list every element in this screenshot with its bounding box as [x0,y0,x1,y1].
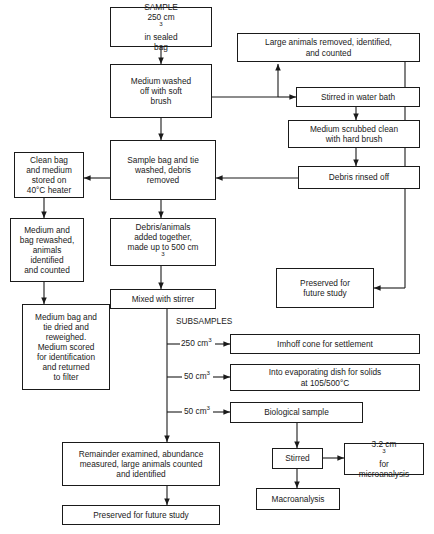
node-clean-bag-line4: 40°C heater [26,185,72,195]
node-preserved-future-study-bottom[interactable]: Preserved for future study [62,505,220,525]
node-macroanalysis[interactable]: Macroanalysis [256,488,340,510]
node-stirred-water-bath[interactable]: Stirred in water bath [296,87,420,107]
node-medium-dried-line2: tie dried and [35,322,97,332]
branch-label-50cm3-b: 50 cm3 [184,407,210,417]
node-preserved-right-line2: future study [300,288,350,298]
node-biological-label: Biological sample [264,407,329,417]
node-mixed-with-stirrer[interactable]: Mixed with stirrer [110,289,216,309]
node-medium-washed-line3: brush [131,96,191,106]
node-medium-rewashed-line4: identified [20,255,74,265]
node-medium-rewashed-line2: bag rewashed, [20,235,74,245]
node-medium-dried-line7: to filter [35,372,97,382]
node-medium-washed-line1: Medium washed [131,76,191,86]
node-medium-dried-line6: and returned [35,362,97,372]
node-medium-rewashed-line1: Medium and [20,225,74,235]
node-remainder-examined[interactable]: Remainder examined, abundance measured, … [62,442,220,486]
node-evaporating-line2: at 105/500°C [269,378,382,388]
node-evaporating-dish[interactable]: Into evaporating dish for solids at 105/… [230,364,420,391]
node-debris-animals-line2: added together, [127,232,198,242]
node-microanalysis[interactable]: 3.2 cm3 for microanalysis [344,443,424,475]
node-medium-rewashed-line5: and counted [20,265,74,275]
branch-label-250cm3: 250 cm3 [181,339,212,349]
node-remainder-line2: measured, large animals counted [79,459,204,469]
label-subsamples: SUBSAMPLES [176,317,232,327]
node-micro-line2: microanalysis [359,469,409,479]
node-remainder-line1: Remainder examined, abundance [79,449,204,459]
node-clean-bag-line3: stored on [26,175,72,185]
node-medium-dried-line3: reweighed. [35,332,97,342]
node-sample-line3: bag [144,42,178,52]
node-medium-bag-dried[interactable]: Medium bag and tie dried and reweighed. … [22,304,110,390]
node-imhoff-label: Imhoff cone for settlement [277,339,373,349]
node-remainder-line3: and identified [79,469,204,479]
node-preserved-right-line1: Preserved for [300,278,350,288]
node-medium-washed-line2: off with soft [131,86,191,96]
node-medium-scrubbed-line1: Medium scrubbed clean [310,124,398,134]
node-medium-washed[interactable]: Medium washed off with soft brush [110,64,212,118]
node-medium-scrubbed-line2: with hard brush [310,134,398,144]
flowchart-canvas: SAMPLE 250 cm3 in sealed bag Medium wash… [0,0,434,534]
node-medium-rewashed-line3: animals [20,245,74,255]
node-stirred-water-bath-label: Stirred in water bath [321,92,395,102]
node-medium-scrubbed[interactable]: Medium scrubbed clean with hard brush [288,120,420,148]
node-debris-rinsed-off-label: Debris rinsed off [329,172,389,182]
node-medium-dried-line1: Medium bag and [35,312,97,322]
node-sample-bag-washed[interactable]: Sample bag and tie washed, debris remove… [110,140,216,200]
node-stirred-label: Stirred [285,453,309,463]
node-clean-bag-stored[interactable]: Clean bag and medium stored on 40°C heat… [14,152,84,198]
node-sample-line1: SAMPLE [144,2,178,12]
node-large-animals-line1: Large animals removed, identified, [265,37,392,47]
node-sample-bag-line3: removed [127,175,199,185]
node-large-animals-line2: and counted [265,48,392,58]
node-sample-bag-line1: Sample bag and tie [127,155,199,165]
node-biological-sample[interactable]: Biological sample [230,402,363,423]
node-preserved-bottom-label: Preserved for future study [93,510,188,520]
node-debris-animals-added[interactable]: Debris/animals added together, made up t… [110,218,216,266]
branch-label-50cm3-a: 50 cm3 [184,372,210,382]
node-imhoff-cone[interactable]: Imhoff cone for settlement [230,334,420,354]
node-micro-line1: 3.2 cm3 for [359,439,409,469]
node-debris-animals-line1: Debris/animals [127,222,198,232]
node-debris-animals-line3: made up to 500 cm3 [127,242,198,262]
node-debris-rinsed-off[interactable]: Debris rinsed off [298,166,420,189]
node-mixed-stirrer-label: Mixed with stirrer [132,294,195,304]
node-medium-dried-line5: for identification [35,352,97,362]
node-clean-bag-line1: Clean bag [26,155,72,165]
node-medium-bag-rewashed[interactable]: Medium and bag rewashed, animals identif… [10,218,84,282]
node-clean-bag-line2: and medium [26,165,72,175]
node-sample[interactable]: SAMPLE 250 cm3 in sealed bag [110,7,212,47]
node-large-animals-removed[interactable]: Large animals removed, identified, and c… [237,33,420,62]
node-macroanalysis-label: Macroanalysis [271,494,324,504]
node-preserved-future-study-right[interactable]: Preserved for future study [276,268,374,308]
node-sample-line2: 250 cm3 in sealed [144,12,178,42]
node-medium-dried-line4: Medium scored [35,342,97,352]
node-evaporating-line1: Into evaporating dish for solids [269,367,382,377]
node-stirred[interactable]: Stirred [272,448,323,469]
node-sample-bag-line2: washed, debris [127,165,199,175]
